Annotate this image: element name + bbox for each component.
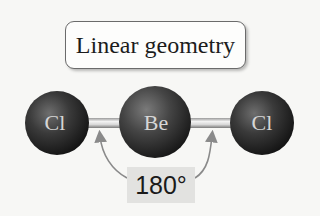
bond-angle-label: 180°	[135, 171, 187, 200]
atom-label-cl-left: Cl	[45, 110, 66, 136]
atom-label-be: Be	[144, 110, 168, 136]
bond-angle-box: 180°	[127, 167, 195, 203]
atom-label-cl-right: Cl	[252, 110, 273, 136]
angle-arc-left-icon	[100, 136, 127, 178]
bond-right	[186, 118, 234, 128]
angle-arc-right-icon	[195, 136, 212, 178]
